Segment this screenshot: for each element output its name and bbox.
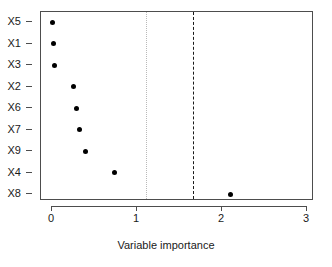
data-point-x6 <box>74 106 79 111</box>
y-tick-x3 <box>26 64 32 65</box>
y-tick-label-x5: X5 <box>8 16 21 27</box>
y-tick-label-x3: X3 <box>8 59 21 70</box>
y-tick-label-x2: X2 <box>8 81 21 92</box>
data-point-x4 <box>112 170 117 175</box>
data-point-x9 <box>83 149 88 154</box>
plot-area <box>40 11 313 200</box>
x-tick-1 <box>136 206 137 211</box>
x-tick-label-0: 0 <box>48 213 54 224</box>
x-tick-label-1: 1 <box>133 213 139 224</box>
y-tick-label-x4: X4 <box>8 167 21 178</box>
y-tick-x9 <box>26 150 32 151</box>
x-axis: 0123 <box>40 200 313 230</box>
y-tick-label-x8: X8 <box>8 188 21 199</box>
data-point-x1 <box>51 41 56 46</box>
y-tick-label-x1: X1 <box>8 38 21 49</box>
y-tick-label-x6: X6 <box>8 102 21 113</box>
data-point-x8 <box>228 192 233 197</box>
x-tick-0 <box>51 206 52 211</box>
y-tick-x6 <box>26 107 32 108</box>
x-tick-label-3: 3 <box>303 213 309 224</box>
y-tick-x1 <box>26 43 32 44</box>
x-axis-title: Variable importance <box>0 239 332 251</box>
x-tick-label-2: 2 <box>218 213 224 224</box>
y-tick-x7 <box>26 129 32 130</box>
x-tick-3 <box>306 206 307 211</box>
data-point-x7 <box>77 127 82 132</box>
data-point-x5 <box>50 20 55 25</box>
y-axis: X5X1X3X2X6X7X9X4X8 <box>0 11 32 200</box>
data-point-x2 <box>71 84 76 89</box>
reference-line-dashed-threshold <box>193 12 194 199</box>
y-tick-label-x9: X9 <box>8 145 21 156</box>
variable-importance-chart: X5X1X3X2X6X7X9X4X8 0123 Variable importa… <box>0 0 332 267</box>
data-point-x3 <box>52 63 57 68</box>
y-tick-x8 <box>26 193 32 194</box>
y-tick-x5 <box>26 21 32 22</box>
y-tick-x2 <box>26 86 32 87</box>
y-tick-x4 <box>26 172 32 173</box>
y-tick-label-x7: X7 <box>8 124 21 135</box>
x-tick-2 <box>221 206 222 211</box>
reference-line-dotted-threshold <box>146 12 147 199</box>
x-axis-line <box>51 206 306 207</box>
